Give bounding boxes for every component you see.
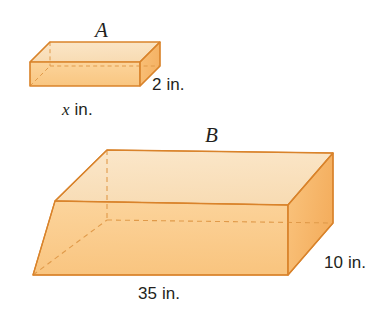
prism-B-front-face xyxy=(33,201,288,275)
prism-A-width-unit: in. xyxy=(70,100,93,119)
prism-A-height-label: 2 in. xyxy=(152,76,185,93)
prism-A xyxy=(30,42,160,86)
prism-B-height-label: 10 in. xyxy=(324,254,366,271)
prism-A-letter-label: A xyxy=(95,20,108,41)
prism-B-width-label: 35 in. xyxy=(138,285,180,302)
prism-A-width-label: x in. xyxy=(62,101,93,118)
prism-B-top-face xyxy=(55,150,333,205)
prism-B xyxy=(33,150,333,275)
prism-B-letter-label: B xyxy=(205,125,218,146)
prism-A-width-variable: x xyxy=(62,100,70,119)
